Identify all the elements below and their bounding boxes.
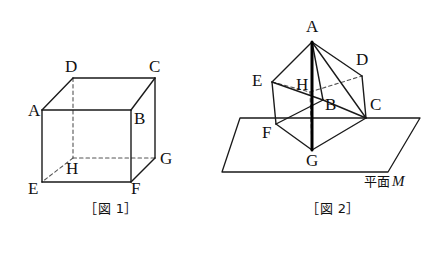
edge-ad bbox=[312, 42, 362, 76]
plane-label-text: 平面 bbox=[364, 174, 390, 189]
edge-fg bbox=[276, 124, 312, 150]
vertex-label-g: G bbox=[306, 151, 318, 170]
vertex-label-b: B bbox=[325, 95, 336, 114]
vertex-label-e: E bbox=[252, 71, 262, 90]
vertex-label-a: A bbox=[28, 101, 41, 120]
vertex-label-h: H bbox=[66, 159, 78, 178]
edge-cb bbox=[131, 78, 155, 110]
vertex-label-c: C bbox=[370, 95, 381, 114]
vertex-label-f: F bbox=[131, 179, 140, 198]
edge-bf bbox=[276, 100, 323, 124]
vertex-label-d: D bbox=[65, 57, 77, 76]
vertex-label-d: D bbox=[356, 50, 368, 69]
edge-dc bbox=[362, 76, 366, 118]
vertex-label-c: C bbox=[149, 57, 160, 76]
edge-ad bbox=[42, 78, 73, 110]
edge-cg bbox=[312, 118, 366, 150]
vertex-label-g: G bbox=[160, 149, 172, 168]
vertex-label-f: F bbox=[262, 123, 271, 142]
vertex-label-b: B bbox=[134, 109, 145, 128]
figure-1-drawing: ABCDEFGH bbox=[0, 0, 222, 200]
figure-2-caption: ［図 2］ bbox=[222, 198, 444, 217]
vertex-label-h: H bbox=[296, 75, 308, 94]
plane-label-m: M bbox=[391, 173, 406, 189]
hidden-edge-hd bbox=[310, 76, 362, 92]
figure-1-caption: ［図 1］ bbox=[0, 198, 222, 217]
vertex-label-a: A bbox=[306, 17, 319, 36]
figure-1-panel: ABCDEFGH ［図 1］ bbox=[0, 0, 222, 254]
vertex-label-e: E bbox=[28, 179, 38, 198]
figure-2-drawing: ADEHBCFG平面M bbox=[222, 0, 444, 200]
figure-2-panel: ADEHBCFG平面M ［図 2］ bbox=[222, 0, 444, 254]
